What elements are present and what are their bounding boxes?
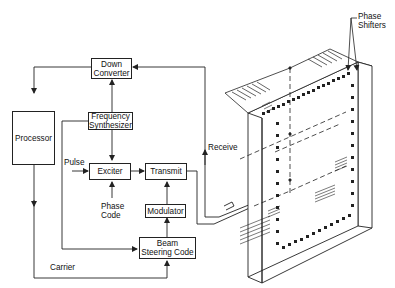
beam-steering-code-block: BeamSteering Code [139,237,196,259]
down-converter-block: DownConverter [91,58,132,79]
phase-shifters-label: PhaseShifters [358,12,386,30]
phase-code-label-1: Phase [101,202,124,211]
beam-steering-label-2: Steering Code [141,248,193,257]
phase-code-label: PhaseCode [101,202,124,220]
frequency-synthesizer-block: FrequencySynthesizer [88,112,133,130]
carrier-label: Carrier [50,263,75,272]
modulator-label: Modulator [147,207,183,216]
freq-synth-label-2: Synthesizer [89,121,132,130]
beam-steering-label-1: Beam [157,239,178,248]
modulator-block: Modulator [145,204,186,218]
transmit-label: Transmit [150,167,182,176]
exciter-label: Exciter [97,167,122,176]
diagram-canvas [0,0,395,288]
phase-shifters-label-2: Shifters [358,21,386,30]
processor-label: Processor [15,134,52,143]
down-converter-label-1: Down [101,60,122,69]
freq-synth-label-1: Frequency [91,112,130,121]
line-downconv-to-processor [34,67,91,93]
line-freqsynth-to-beam [62,121,137,249]
phase-shifters-label-1: Phase [358,12,381,21]
phase-code-label-2: Code [101,211,121,220]
pulse-label: Pulse [64,158,84,167]
transmit-block: Transmit [145,163,187,180]
receive-label: Receive [208,143,238,152]
down-converter-label-2: Converter [94,69,130,78]
processor-block: Processor [12,111,55,165]
exciter-block: Exciter [89,163,131,180]
line-carrier [34,165,167,278]
